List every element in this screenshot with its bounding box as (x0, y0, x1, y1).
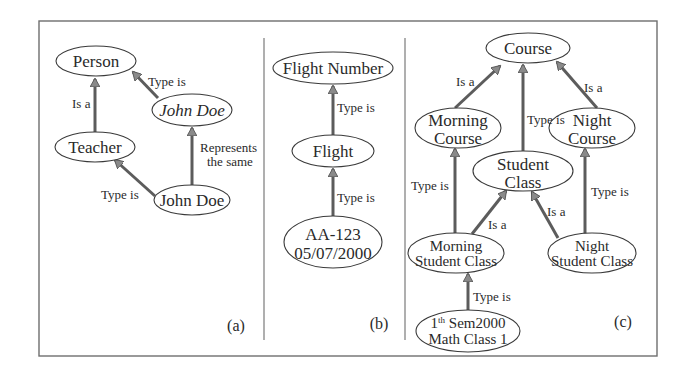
svg-text:Student Class: Student Class (551, 253, 633, 269)
node-morning-student-class: Morning Student Class (408, 233, 504, 273)
edge-label: Is a (456, 74, 475, 89)
edge-label: Is a (488, 217, 507, 232)
diagram-figure: Person John Doe Teacher John Doe Type is… (0, 0, 690, 378)
node-person: Person (56, 46, 136, 76)
svg-text:Night: Night (573, 111, 612, 130)
edge-label: Type is (473, 289, 511, 304)
edge-label: Type is (337, 190, 375, 205)
edge-label: Type is (527, 112, 565, 127)
edge-label: Type is (148, 74, 186, 89)
node-math-class: 1th Sem2000 Math Class 1 (416, 310, 520, 352)
node-aa-123: AA-123 05/07/2000 (284, 216, 382, 268)
edge-label: Is a (72, 96, 91, 111)
svg-text:Teacher: Teacher (68, 138, 122, 157)
edge-label: Type is (101, 187, 139, 202)
edge-label: Represents (200, 140, 257, 155)
svg-text:John Doe: John Doe (160, 191, 225, 210)
node-course: Course (486, 33, 570, 63)
panel-tag-b: (b) (370, 315, 389, 333)
node-flight: Flight (292, 135, 374, 167)
panel-a: Person John Doe Teacher John Doe Type is… (55, 46, 257, 335)
panel-tag-a: (a) (227, 317, 245, 335)
node-flight-number: Flight Number (273, 52, 393, 84)
node-student-class: Student Class (473, 151, 573, 192)
edge-label: Is a (584, 80, 603, 95)
node-john-doe: John Doe (154, 185, 230, 215)
svg-text:Morning: Morning (430, 238, 483, 254)
node-night-student-class: Night Student Class (548, 233, 636, 273)
edge-label: Type is (411, 178, 449, 193)
panel-tag-c: (c) (614, 313, 632, 331)
svg-text:Course: Course (568, 129, 616, 148)
svg-text:Class: Class (505, 173, 542, 192)
svg-text:05/07/2000: 05/07/2000 (294, 244, 371, 263)
svg-text:Flight Number: Flight Number (283, 59, 384, 78)
node-teacher: Teacher (55, 132, 135, 162)
svg-text:Morning: Morning (428, 111, 488, 130)
svg-text:Course: Course (434, 129, 482, 148)
node-john-doe-italic: John Doe (152, 94, 232, 126)
svg-text:Student Class: Student Class (415, 253, 497, 269)
edge-label: Type is (337, 100, 375, 115)
edge-label: the same (207, 154, 253, 169)
node-morning-course: Morning Course (415, 108, 501, 148)
svg-text:John Doe: John Doe (159, 101, 225, 120)
svg-text:AA-123: AA-123 (305, 225, 361, 244)
svg-text:Flight: Flight (313, 142, 354, 161)
svg-text:Student: Student (497, 155, 549, 174)
svg-text:Math Class 1: Math Class 1 (428, 331, 507, 347)
svg-text:Night: Night (575, 238, 610, 254)
panel-b: Flight Number Flight AA-123 05/07/2000 T… (273, 52, 393, 333)
svg-text:Course: Course (504, 39, 552, 58)
panel-c: Course Morning Course Night Course Stude… (408, 33, 636, 352)
svg-text:Person: Person (73, 52, 120, 71)
edge-label: Is a (547, 204, 566, 219)
edge-label: Type is (591, 184, 629, 199)
